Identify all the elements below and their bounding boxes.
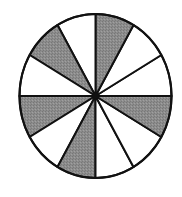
fraction-circle-diagram — [0, 0, 182, 197]
center-point — [93, 93, 99, 99]
